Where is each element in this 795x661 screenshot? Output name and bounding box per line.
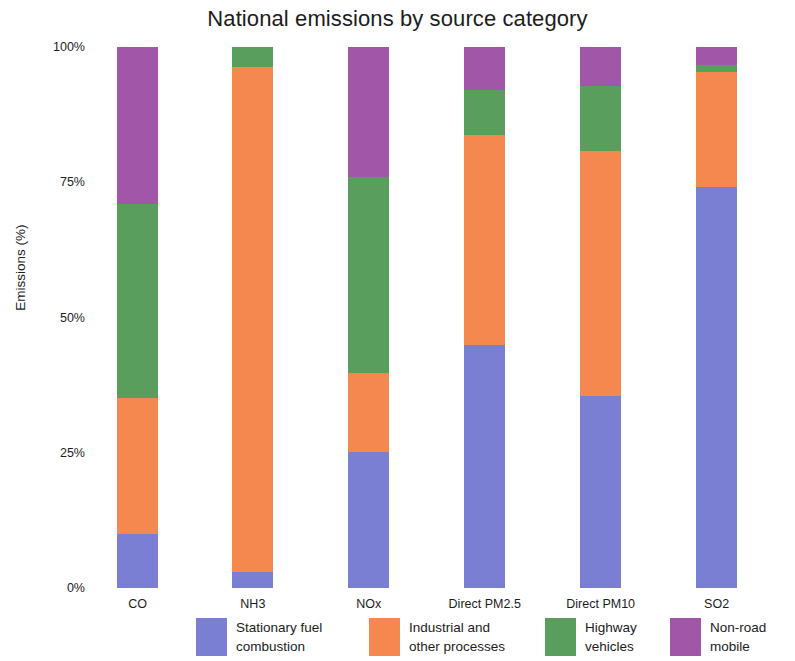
bar-segment[interactable] (464, 135, 505, 345)
x-axis-tick: NH3 (240, 597, 265, 611)
bar-group[interactable]: SO2 (696, 47, 737, 588)
y-axis-tick: 0% (67, 581, 85, 595)
bar-group[interactable]: CO (117, 47, 158, 588)
bar-segment[interactable] (117, 204, 158, 397)
legend-swatch (545, 618, 576, 656)
y-axis-tick: 75% (60, 175, 85, 189)
chart-legend: Stationary fuel combustionIndustrial and… (196, 618, 795, 656)
bar-segment[interactable] (117, 47, 158, 204)
legend-entry[interactable]: Stationary fuel combustion (196, 618, 369, 656)
bar-stack (464, 47, 505, 588)
x-axis-tick: Direct PM10 (566, 597, 635, 611)
plot-area: 0%25%50%75%100%CONH3NOxDirect PM2.5Direc… (96, 47, 778, 588)
legend-entry[interactable]: Non-road mobile (670, 618, 790, 656)
legend-label: Stationary fuel combustion (236, 618, 322, 656)
bar-stack (348, 47, 389, 588)
bar-segment[interactable] (696, 47, 737, 65)
bar-group[interactable]: Direct PM10 (580, 47, 621, 588)
bar-segment[interactable] (348, 373, 389, 452)
bar-segment[interactable] (580, 396, 621, 588)
y-axis-tick: 50% (60, 311, 85, 325)
bar-group[interactable]: Direct PM2.5 (464, 47, 505, 588)
bar-segment[interactable] (696, 65, 737, 72)
legend-label: Industrial and other processes (409, 618, 505, 656)
x-axis-tick: NOx (356, 597, 381, 611)
legend-entry[interactable]: Highway vehicles (545, 618, 670, 656)
page-title: National emissions by source category (0, 6, 795, 32)
bar-segment[interactable] (696, 72, 737, 187)
legend-label: Non-road mobile (710, 618, 766, 656)
bar-group[interactable]: NH3 (232, 47, 273, 588)
bar-segment[interactable] (580, 151, 621, 396)
stacked-bar-chart: National emissions by source category Em… (0, 0, 795, 661)
x-axis-tick: SO2 (704, 597, 729, 611)
bar-segment[interactable] (464, 345, 505, 588)
legend-swatch (369, 618, 400, 656)
y-axis-tick: 25% (60, 446, 85, 460)
bar-segment[interactable] (580, 86, 621, 151)
bar-segment[interactable] (232, 572, 273, 588)
bar-segment[interactable] (696, 187, 737, 588)
bar-segment[interactable] (464, 90, 505, 135)
y-axis-tick: 100% (53, 40, 85, 54)
bar-group[interactable]: NOx (348, 47, 389, 588)
bar-stack (232, 47, 273, 588)
bar-segment[interactable] (117, 534, 158, 588)
bar-segment[interactable] (232, 47, 273, 67)
legend-swatch (196, 618, 227, 656)
x-axis-tick: Direct PM2.5 (449, 597, 521, 611)
legend-label: Highway vehicles (585, 618, 637, 656)
bar-segment[interactable] (348, 452, 389, 588)
bar-segment[interactable] (348, 177, 389, 372)
bar-stack (696, 47, 737, 588)
legend-entry[interactable]: Industrial and other processes (369, 618, 545, 656)
legend-swatch (670, 618, 701, 656)
bar-stack (580, 47, 621, 588)
bar-stack (117, 47, 158, 588)
bar-segment[interactable] (348, 47, 389, 177)
bar-segment[interactable] (232, 67, 273, 572)
bar-segment[interactable] (117, 398, 158, 534)
bar-segment[interactable] (580, 47, 621, 86)
bar-segment[interactable] (464, 47, 505, 90)
y-axis-label: Emissions (%) (13, 188, 28, 348)
x-axis-tick: CO (128, 597, 147, 611)
